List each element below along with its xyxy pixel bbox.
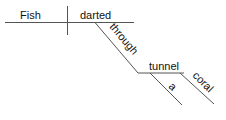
- sentence-diagram: Fish darted through tunnel a coral: [0, 0, 226, 120]
- preposition-word: through: [107, 21, 140, 57]
- object-word: tunnel: [149, 60, 179, 72]
- subject-word: Fish: [20, 9, 41, 21]
- modifier-slant-a: [150, 73, 182, 105]
- verb-word: darted: [80, 9, 111, 21]
- modifier-word-coral: coral: [191, 69, 216, 94]
